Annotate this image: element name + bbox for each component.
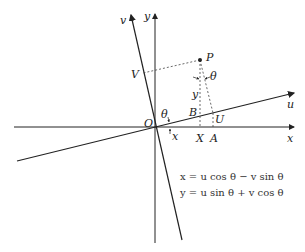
- label-theta-p: θ: [210, 70, 217, 83]
- label-origin: O: [144, 117, 153, 130]
- origin-theta-arrow-top: [168, 117, 169, 122]
- label-v-axis: v: [120, 14, 127, 27]
- label-point-x: X: [195, 132, 205, 145]
- point-p-dot: [198, 58, 202, 62]
- equation-y: y = u sin θ + v cos θ: [179, 187, 284, 198]
- label-point-a: A: [209, 132, 218, 145]
- theta-arrow-left: [193, 77, 199, 79]
- label-point-b: B: [188, 106, 197, 119]
- dashed-p-to-u: [200, 60, 213, 113]
- label-u-axis: u: [287, 98, 294, 111]
- label-x-axis: x: [287, 132, 294, 145]
- label-point-u: U: [215, 113, 225, 126]
- dashed-p-to-v: [143, 60, 200, 73]
- label-point-v: V: [131, 68, 140, 81]
- label-y-axis: y: [143, 10, 151, 23]
- rotation-diagram: x y u v O P V B U X A θ θ y x x = u cos …: [0, 0, 305, 252]
- label-seg-y: y: [191, 88, 199, 101]
- label-seg-x: x: [172, 130, 179, 143]
- label-point-p: P: [205, 51, 214, 64]
- label-theta-origin: θ: [161, 108, 168, 121]
- equation-x: x = u cos θ − v sin θ: [180, 171, 283, 182]
